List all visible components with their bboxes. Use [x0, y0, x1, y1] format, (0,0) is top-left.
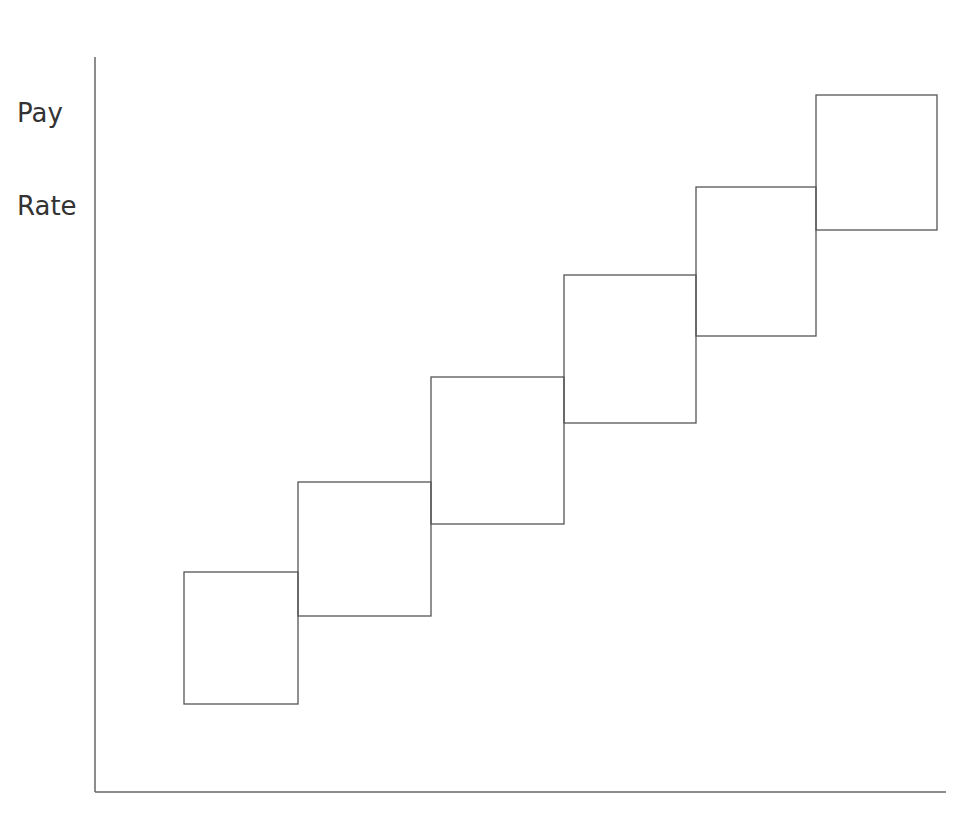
pay-grade-box-4 [564, 275, 696, 423]
pay-grade-box-1 [184, 572, 298, 704]
pay-structure-chart [0, 0, 971, 823]
pay-grade-box-5 [696, 187, 816, 336]
pay-grade-box-6 [816, 95, 937, 230]
pay-grade-box-2 [298, 482, 431, 616]
pay-grade-box-3 [431, 377, 564, 524]
pay-grade-ranges [184, 95, 937, 704]
